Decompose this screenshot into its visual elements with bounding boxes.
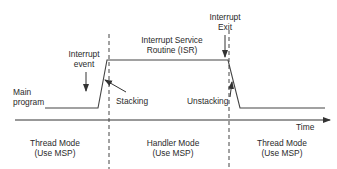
isr-line2: Routine (ISR) bbox=[122, 45, 222, 55]
interrupt-event-line2: event bbox=[55, 59, 113, 69]
stacking-pointer bbox=[105, 80, 126, 92]
isr-line1: Interrupt Service bbox=[122, 35, 222, 45]
unstacking-pointer bbox=[230, 82, 232, 97]
interrupt-exit-label: Interrupt Exit bbox=[200, 12, 250, 32]
mode-stack: (Use MSP) bbox=[247, 148, 317, 158]
interrupt-exit-line1: Interrupt bbox=[200, 12, 250, 22]
main-program-line2: program bbox=[13, 97, 44, 107]
stacking-label: Stacking bbox=[116, 96, 148, 106]
mode-name: Handler Mode bbox=[133, 138, 213, 148]
mode-stack: (Use MSP) bbox=[20, 148, 90, 158]
mode-thread-2: Thread Mode (Use MSP) bbox=[247, 138, 317, 158]
mode-thread-1: Thread Mode (Use MSP) bbox=[20, 138, 90, 158]
interrupt-event-label: Interrupt event bbox=[55, 49, 113, 69]
interrupt-event-line1: Interrupt bbox=[55, 49, 113, 59]
main-program-line1: Main bbox=[13, 87, 44, 97]
unstacking-label: Unstacking bbox=[187, 96, 228, 106]
time-label: Time bbox=[296, 122, 314, 132]
mode-stack: (Use MSP) bbox=[133, 148, 213, 158]
mode-handler: Handler Mode (Use MSP) bbox=[133, 138, 213, 158]
mode-name: Thread Mode bbox=[247, 138, 317, 148]
isr-label: Interrupt Service Routine (ISR) bbox=[122, 35, 222, 55]
interrupt-exit-line2: Exit bbox=[200, 22, 250, 32]
mode-name: Thread Mode bbox=[20, 138, 90, 148]
main-program-label: Main program bbox=[13, 87, 44, 107]
